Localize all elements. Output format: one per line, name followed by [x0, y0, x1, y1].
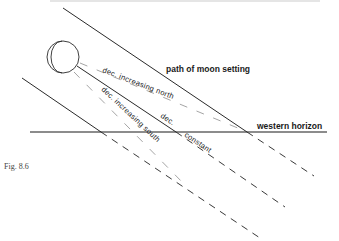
western-horizon-label: western horizon — [256, 121, 322, 131]
moon-setting-diagram: path of moon setting western horizon dec… — [0, 0, 339, 241]
moon-setting-path-below-horizon — [247, 132, 314, 176]
moon-icon — [47, 41, 79, 73]
dec-constant-label-a: dec. — [159, 111, 177, 127]
dec-increasing-south-label: dec. increasing south — [100, 85, 163, 144]
figure-caption: Fig. 8.6 — [4, 162, 29, 171]
path-of-moon-setting-label: path of moon setting — [166, 64, 250, 74]
dec-constant-label-b: constant — [183, 130, 214, 155]
left-parallel-below-horizon — [101, 132, 260, 238]
left-parallel-line — [22, 78, 101, 132]
